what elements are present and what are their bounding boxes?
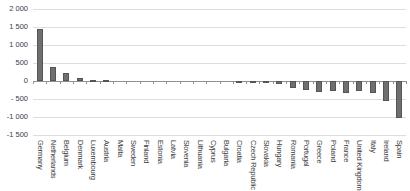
bar-austria xyxy=(103,80,109,82)
x-axis-tick xyxy=(113,81,114,84)
y-axis-label: 1 500 xyxy=(0,23,28,31)
bar-belgium xyxy=(63,73,69,81)
x-axis-tick xyxy=(246,81,247,84)
bar-greece xyxy=(316,81,322,92)
x-axis-label: Hungary xyxy=(274,140,284,167)
bar-slovakia xyxy=(263,81,269,83)
bar-czech-republic xyxy=(250,81,256,83)
bar-romania xyxy=(290,81,296,88)
x-axis-label: Spain xyxy=(394,140,404,158)
x-axis-tick xyxy=(140,81,141,84)
x-axis-tick xyxy=(206,81,207,84)
bar-france xyxy=(343,81,349,93)
bar-netherlands xyxy=(50,67,56,81)
x-axis-tick xyxy=(33,81,34,84)
x-axis-tick xyxy=(100,81,101,84)
x-axis-tick xyxy=(220,81,221,84)
x-axis-tick xyxy=(366,81,367,84)
y-axis-label: 500 xyxy=(0,59,28,67)
bar-ireland xyxy=(383,81,389,101)
x-axis-label: Slovenia xyxy=(181,140,191,167)
x-axis-label: Austria xyxy=(101,140,111,162)
x-axis-label: Italy xyxy=(368,140,378,153)
bar-luxembourg xyxy=(90,80,96,82)
x-axis-label: Latvia xyxy=(168,140,178,159)
x-axis-label: Croatia xyxy=(234,140,244,163)
bar-portugal xyxy=(303,81,309,90)
x-axis-tick xyxy=(259,81,260,84)
x-axis-label: Greece xyxy=(314,140,324,163)
bar-hungary xyxy=(276,81,282,84)
x-axis-tick xyxy=(73,81,74,84)
bar-spain xyxy=(396,81,402,118)
x-axis-label: Bulgaria xyxy=(221,140,231,166)
x-axis-label: Luxembourg xyxy=(88,140,98,180)
gridline xyxy=(33,135,406,136)
x-axis-label: Ireland xyxy=(381,140,391,162)
gridline xyxy=(33,45,406,46)
x-axis-label: Malta xyxy=(115,140,125,157)
x-axis-label: Denmark xyxy=(75,140,85,169)
x-axis-label: France xyxy=(341,140,351,162)
x-axis-label: Cyprus xyxy=(208,140,218,163)
y-axis-label: -1 000 xyxy=(0,113,28,121)
gridline xyxy=(33,27,406,28)
gridline xyxy=(33,99,406,100)
y-axis-label: -1 500 xyxy=(0,131,28,139)
x-axis-label: Portugal xyxy=(301,140,311,166)
x-axis-tick xyxy=(286,81,287,84)
x-axis-tick xyxy=(233,81,234,84)
y-axis-label: 0 xyxy=(0,77,28,85)
bar-italy xyxy=(370,81,376,93)
x-axis-tick xyxy=(60,81,61,84)
x-axis-tick xyxy=(46,81,47,84)
x-axis-tick xyxy=(353,81,354,84)
x-axis-tick xyxy=(166,81,167,84)
x-axis-tick xyxy=(299,81,300,84)
bar-chart: 2 0001 5001 0005000- 500-1 000-1 500 Ger… xyxy=(0,0,410,191)
x-axis-label: Sweden xyxy=(128,140,138,166)
x-axis-tick xyxy=(126,81,127,84)
y-axis-label: - 500 xyxy=(0,95,28,103)
bar-croatia xyxy=(236,81,242,83)
y-axis-label: 2 000 xyxy=(0,5,28,13)
bar-germany xyxy=(37,29,43,81)
x-axis-label: Slovakia xyxy=(261,140,271,167)
x-axis-label: Estonia xyxy=(155,140,165,164)
x-axis-tick xyxy=(273,81,274,84)
bar-poland xyxy=(330,81,336,91)
x-axis-label: Czech Republic xyxy=(248,140,258,190)
x-axis-label: United Kingdom xyxy=(354,140,364,191)
x-axis-tick xyxy=(86,81,87,84)
x-axis-tick xyxy=(406,81,407,84)
x-axis-tick xyxy=(326,81,327,84)
gridline xyxy=(33,9,406,10)
gridline xyxy=(33,117,406,118)
x-axis-label: Poland xyxy=(328,140,338,162)
x-axis-tick xyxy=(193,81,194,84)
x-axis-tick xyxy=(379,81,380,84)
x-axis-tick xyxy=(339,81,340,84)
x-axis-tick xyxy=(313,81,314,84)
gridline xyxy=(33,63,406,64)
x-axis-label: Lithuania xyxy=(195,140,205,169)
x-axis-label: Finland xyxy=(141,140,151,163)
bar-united-kingdom xyxy=(356,81,362,91)
x-axis-label: Romania xyxy=(288,140,298,169)
x-axis-tick xyxy=(153,81,154,84)
bar-denmark xyxy=(77,78,83,81)
x-axis-label: Netherlands xyxy=(48,140,58,178)
x-axis-tick xyxy=(393,81,394,84)
x-axis-label: Belgium xyxy=(61,140,71,166)
x-axis-label: Germany xyxy=(35,140,45,169)
x-axis-tick xyxy=(180,81,181,84)
y-axis-label: 1 000 xyxy=(0,41,28,49)
